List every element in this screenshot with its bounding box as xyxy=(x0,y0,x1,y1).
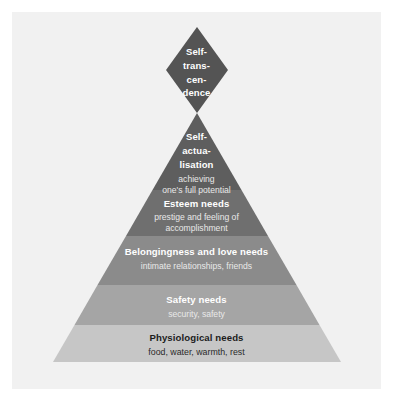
figure-root: Self- trans- cen- dence Self- actua- lis… xyxy=(0,0,393,401)
level-title-safety-needs: Safety needs xyxy=(0,294,393,305)
level-subtitle-self-actualisation: achieving one's full potential xyxy=(122,174,272,195)
level-label-self-transcendence: Self- trans- cen- dence xyxy=(0,45,393,100)
level-title-self-transcendence: Self- trans- cen- dence xyxy=(0,45,393,100)
level-label-belongingness-and-love-needs: Belongingness and love needs intimate re… xyxy=(0,246,393,272)
level-label-safety-needs: Safety needs security, safety xyxy=(0,294,393,320)
level-title-self-actualisation: Self- actua- lisation xyxy=(0,130,393,171)
level-subtitle-esteem-needs: prestige and feeling of accomplishment xyxy=(107,212,287,233)
level-title-belongingness-and-love-needs: Belongingness and love needs xyxy=(0,246,393,257)
level-subtitle-safety-needs: security, safety xyxy=(0,309,393,319)
level-label-physiological-needs: Physiological needs food, water, warmth,… xyxy=(0,332,393,358)
level-label-self-actualisation: Self- actua- lisation achieving one's fu… xyxy=(0,130,393,195)
level-subtitle-physiological-needs: food, water, warmth, rest xyxy=(0,347,393,358)
level-title-esteem-needs: Esteem needs xyxy=(0,198,393,209)
level-label-esteem-needs: Esteem needs prestige and feeling of acc… xyxy=(0,198,393,233)
level-subtitle-belongingness-and-love-needs: intimate relationships, friends xyxy=(0,261,393,271)
level-title-physiological-needs: Physiological needs xyxy=(0,332,393,343)
